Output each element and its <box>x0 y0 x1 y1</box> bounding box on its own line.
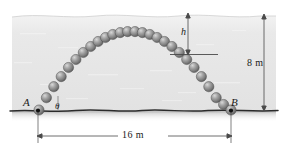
label-point-b: B <box>231 97 238 108</box>
label-vertical-dimension: 8 m <box>247 58 263 68</box>
label-point-a: A <box>23 97 30 108</box>
label-height-h: h <box>181 27 186 37</box>
point-b-marker <box>229 109 233 113</box>
ground-shadow <box>12 111 276 122</box>
projectile-motion-figure: A B θ h 8 m 16 m <box>0 0 287 155</box>
label-horizontal-dimension: 16 m <box>122 130 144 140</box>
label-launch-angle: θ <box>55 102 59 111</box>
point-a-marker <box>36 109 40 113</box>
